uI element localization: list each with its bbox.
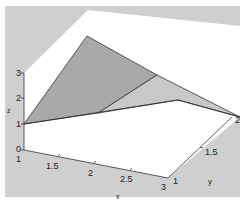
- z-tick-label: 3: [16, 68, 21, 78]
- x-tick-label: 2: [88, 168, 93, 178]
- x-tick-label: 2.5: [120, 174, 133, 184]
- y-tick-label: 1: [173, 176, 178, 186]
- y-tick-label: 2: [235, 115, 240, 125]
- z-tick-label: 0: [16, 144, 21, 154]
- surface-plot: 3 2 1 0 z 1 1.5 2 2.5 3 x 1 1.5 2 y: [0, 0, 244, 205]
- z-axis-label: z: [7, 107, 11, 114]
- x-tick-label: 3: [161, 182, 166, 192]
- z-tick-label: 1: [16, 119, 21, 129]
- y-tick-label: 1.5: [205, 147, 218, 157]
- y-axis-label: y: [208, 177, 212, 186]
- x-tick-label: 1.5: [46, 161, 59, 171]
- z-tick-label: 2: [16, 93, 21, 103]
- x-axis-label: x: [116, 193, 120, 200]
- figure-window: 3 2 1 0 z 1 1.5 2 2.5 3 x 1 1.5 2 y: [0, 0, 244, 205]
- x-tick-label: 1: [16, 154, 21, 164]
